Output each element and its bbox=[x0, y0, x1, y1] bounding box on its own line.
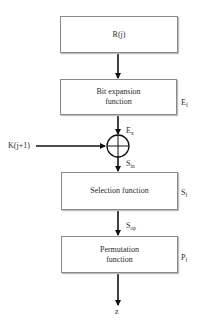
xor-icon bbox=[107, 135, 129, 157]
sf-label: Sf bbox=[181, 188, 187, 200]
selection-function-box: Selection function bbox=[61, 172, 178, 210]
permutation-function-box: Permutation function bbox=[61, 236, 178, 273]
expansion-line2: function bbox=[105, 97, 132, 107]
sop-label: Sop bbox=[126, 221, 136, 233]
rj-label: R(j) bbox=[113, 30, 126, 40]
expansion-line1: Bit expansion bbox=[96, 87, 140, 97]
bit-expansion-box: Bit expansion function bbox=[60, 79, 177, 115]
permutation-line2: function bbox=[106, 255, 133, 265]
z-output-label: z bbox=[115, 307, 119, 316]
ex-label: Ex bbox=[126, 126, 134, 138]
pf-label: Pf bbox=[181, 253, 187, 265]
ef-label: Ef bbox=[181, 98, 188, 110]
rj-box: R(j) bbox=[60, 16, 178, 53]
sin-label: Sin bbox=[126, 159, 135, 171]
key-label: K(j+1) bbox=[8, 141, 30, 150]
permutation-line1: Permutation bbox=[100, 245, 139, 255]
selection-label: Selection function bbox=[90, 186, 148, 196]
